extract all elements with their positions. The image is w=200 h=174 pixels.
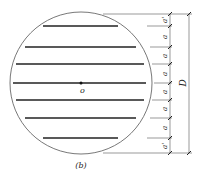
svg-text:a: a <box>161 90 169 94</box>
center-label: o <box>80 86 85 95</box>
svg-text:a: a <box>161 54 169 58</box>
svg-text:a': a' <box>161 17 169 23</box>
svg-text:a: a <box>161 72 169 76</box>
svg-text:a: a <box>161 107 169 111</box>
svg-text:a: a <box>161 126 169 130</box>
svg-text:a': a' <box>161 143 169 149</box>
figure-caption: (b) <box>75 161 86 170</box>
circle-chord-diagram: o a' a a a a a a a' <box>0 0 200 174</box>
dimension-D-label: D <box>178 79 188 87</box>
center-point <box>80 82 83 85</box>
chords <box>13 26 146 138</box>
svg-text:a: a <box>161 35 169 39</box>
